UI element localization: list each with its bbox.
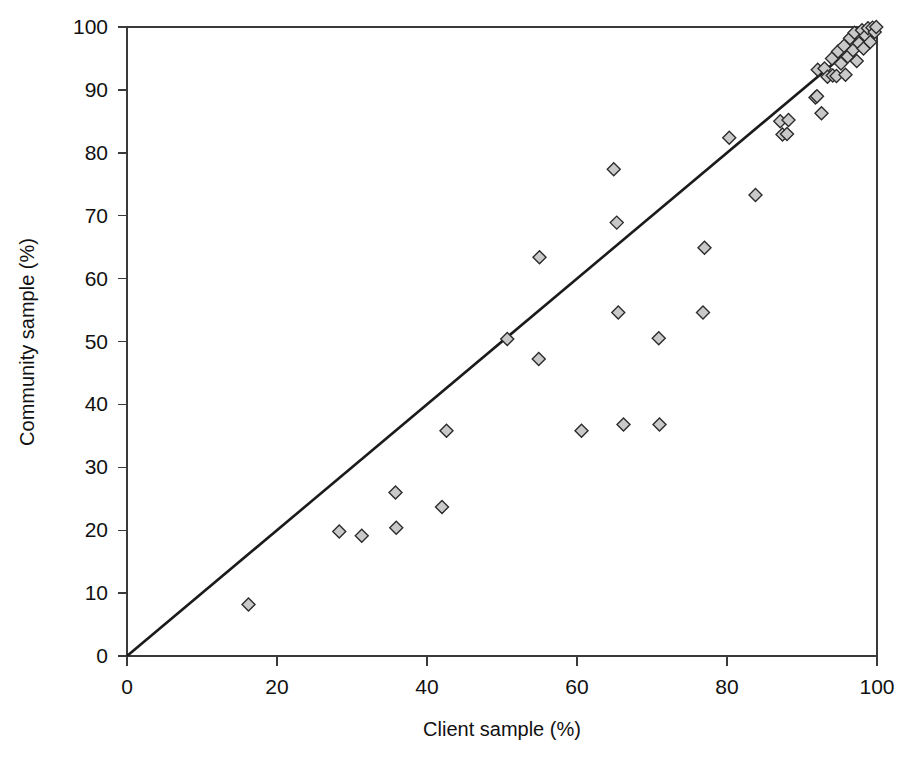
data-point-marker bbox=[612, 306, 625, 319]
data-point-marker bbox=[436, 500, 449, 513]
data-point-marker bbox=[610, 216, 623, 229]
y-tick-label: 50 bbox=[85, 330, 108, 353]
data-point-marker bbox=[653, 418, 666, 431]
y-tick-label: 90 bbox=[85, 78, 108, 101]
x-tick-label: 80 bbox=[715, 675, 738, 698]
y-tick-label: 20 bbox=[85, 518, 108, 541]
data-point-marker bbox=[440, 424, 453, 437]
x-tick-label: 60 bbox=[565, 675, 588, 698]
x-axis-ticks: 020406080100 bbox=[121, 656, 894, 698]
x-axis-title: Client sample (%) bbox=[423, 718, 581, 740]
data-point-marker bbox=[390, 521, 403, 534]
y-tick-label: 30 bbox=[85, 455, 108, 478]
identity-reference-line bbox=[127, 27, 877, 656]
y-tick-label: 70 bbox=[85, 204, 108, 227]
data-point-marker bbox=[532, 353, 545, 366]
plot-canvas: 0102030405060708090100 020406080100 Clie… bbox=[0, 0, 908, 757]
scatter-plot-figure: 0102030405060708090100 020406080100 Clie… bbox=[0, 0, 908, 757]
data-point-marker bbox=[697, 306, 710, 319]
data-point-marker bbox=[533, 251, 546, 264]
y-tick-label: 0 bbox=[96, 644, 108, 667]
data-point-marker bbox=[698, 241, 711, 254]
data-point-marker bbox=[815, 107, 828, 120]
y-tick-label: 80 bbox=[85, 141, 108, 164]
data-point-marker bbox=[749, 188, 762, 201]
y-tick-label: 40 bbox=[85, 392, 108, 415]
y-tick-label: 10 bbox=[85, 581, 108, 604]
y-axis-ticks: 0102030405060708090100 bbox=[73, 15, 127, 667]
data-point-marker bbox=[575, 424, 588, 437]
data-point-marker bbox=[723, 131, 736, 144]
data-point-marker bbox=[333, 525, 346, 538]
data-point-marker bbox=[242, 598, 255, 611]
data-point-marker bbox=[607, 163, 620, 176]
x-tick-label: 40 bbox=[415, 675, 438, 698]
data-point-marker bbox=[617, 418, 630, 431]
x-tick-label: 0 bbox=[121, 675, 133, 698]
data-point-layer bbox=[242, 21, 883, 611]
y-tick-label: 100 bbox=[73, 15, 108, 38]
data-point-marker bbox=[389, 486, 402, 499]
x-tick-label: 100 bbox=[859, 675, 894, 698]
y-tick-label: 60 bbox=[85, 267, 108, 290]
data-point-marker bbox=[355, 529, 368, 542]
data-point-marker bbox=[652, 332, 665, 345]
y-axis-title: Community sample (%) bbox=[16, 238, 38, 446]
x-tick-label: 20 bbox=[265, 675, 288, 698]
